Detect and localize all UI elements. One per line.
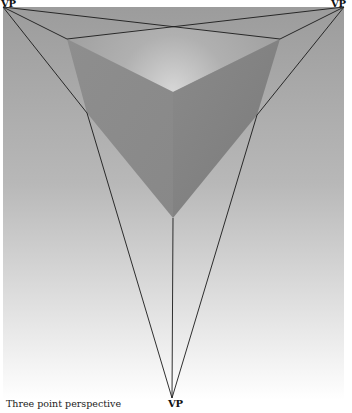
vp-label-right: VP [331,0,346,9]
diagram-canvas [0,0,352,413]
three-point-perspective-diagram: VP VP VP Three point perspective [0,0,352,413]
diagram-caption: Three point perspective [6,398,121,409]
vp-label-bottom: VP [168,399,183,409]
vp-label-left: VP [1,0,16,9]
